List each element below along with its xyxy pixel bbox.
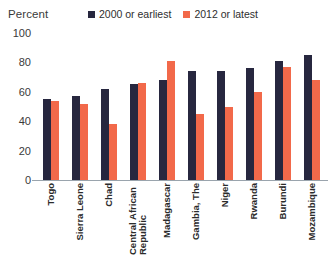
bar[interactable] (246, 68, 254, 180)
x-tick-cell: Central African Republic (123, 183, 152, 259)
bar[interactable] (159, 80, 167, 180)
x-tick-label: Sierra Leone (75, 183, 85, 241)
bar-group (210, 33, 239, 180)
legend-swatch-icon-late (183, 11, 190, 18)
legend-label-early: 2000 or earliest (99, 9, 171, 20)
x-tick-label: Mozambique (307, 183, 317, 241)
bar[interactable] (217, 71, 225, 180)
x-tick-label: Niger (220, 183, 230, 207)
x-axis-baseline (32, 180, 328, 181)
x-tick-cell: Burundi (268, 183, 297, 259)
bar[interactable] (101, 89, 109, 180)
bar[interactable] (283, 67, 291, 180)
bar-group (297, 33, 326, 180)
bar-group (239, 33, 268, 180)
y-tick-label: 80 (19, 56, 31, 68)
y-tick-label: 40 (19, 115, 31, 127)
plot-area: 100806040200 (36, 33, 326, 180)
x-tick-cell: Mozambique (297, 183, 326, 259)
bar-group (94, 33, 123, 180)
x-tick-label: Central African Republic (128, 183, 148, 255)
legend-label-late: 2012 or latest (194, 9, 258, 20)
y-tick-label: 0 (25, 174, 31, 186)
bar-chart: Percent 2000 or earliest 2012 or latest … (0, 0, 332, 262)
bar[interactable] (109, 124, 117, 180)
legend-swatch-icon-early (88, 11, 95, 18)
legend-entry-2012-or-latest[interactable]: 2012 or latest (183, 9, 258, 20)
bar[interactable] (138, 83, 146, 180)
bar-group (123, 33, 152, 180)
bar-group (65, 33, 94, 180)
bar[interactable] (188, 71, 196, 180)
x-tick-cell: Gambia, The (181, 183, 210, 259)
bar[interactable] (312, 80, 320, 180)
bar[interactable] (196, 114, 204, 180)
x-tick-cell: Sierra Leone (65, 183, 94, 259)
bar[interactable] (130, 84, 138, 180)
y-tick-label: 100 (13, 27, 31, 39)
x-tick-label: Chad (104, 183, 114, 207)
x-tick-cell: Rwanda (239, 183, 268, 259)
bar[interactable] (51, 101, 59, 180)
x-tick-cell: Chad (94, 183, 123, 259)
bar-group (268, 33, 297, 180)
bar[interactable] (80, 104, 88, 180)
x-tick-cell: Togo (36, 183, 65, 259)
x-tick-label: Gambia, The (191, 183, 201, 240)
x-tick-label: Madagascar (162, 183, 172, 238)
x-tick-cell: Madagascar (152, 183, 181, 259)
bar[interactable] (304, 55, 312, 180)
bar[interactable] (275, 61, 283, 180)
y-tick-label: 20 (19, 145, 31, 157)
bar[interactable] (72, 96, 80, 180)
bar-group (181, 33, 210, 180)
y-axis-title: Percent (8, 8, 48, 20)
x-axis-category-labels: TogoSierra LeoneChadCentral African Repu… (36, 183, 326, 259)
bar[interactable] (43, 99, 51, 180)
bar-group (152, 33, 181, 180)
y-tick-label: 60 (19, 86, 31, 98)
bar[interactable] (225, 107, 233, 181)
legend-entry-2000-or-earliest[interactable]: 2000 or earliest (88, 9, 171, 20)
x-tick-cell: Niger (210, 183, 239, 259)
bar[interactable] (254, 92, 262, 180)
x-tick-label: Burundi (278, 183, 288, 219)
bar[interactable] (167, 61, 175, 180)
bar-group (36, 33, 65, 180)
x-tick-label: Togo (46, 183, 56, 206)
x-tick-label: Rwanda (249, 183, 259, 219)
bar-groups (36, 33, 326, 180)
chart-legend: 2000 or earliest 2012 or latest (88, 9, 258, 20)
